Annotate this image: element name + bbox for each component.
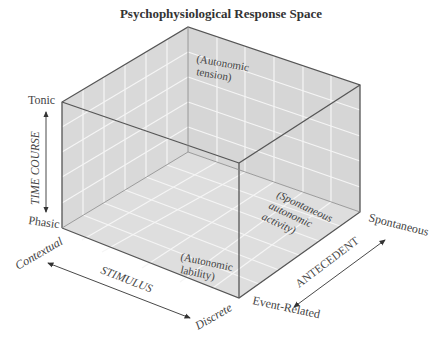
antecedent-end-label: Spontaneous: [367, 210, 430, 239]
time-course-low-label: Phasic: [28, 213, 61, 231]
stimulus-axis-label: STIMULUS: [99, 264, 154, 295]
antecedent-start-label: Event-Related: [251, 293, 321, 321]
stimulus-end-label: Discrete: [192, 300, 235, 333]
time-course-axis-label: TIME COURSE: [29, 131, 41, 205]
time-course-high-label: Tonic: [28, 93, 55, 107]
cube-figure: (Autonomic tension) (Spontaneous autonom…: [0, 0, 442, 343]
response-space-diagram: Psychophysiological Response Space: [0, 0, 442, 343]
